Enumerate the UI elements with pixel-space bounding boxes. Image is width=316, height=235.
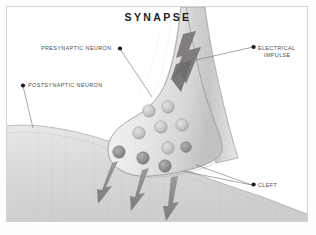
- label-postsynaptic-neuron: POSTSYNAPTIC NEURON: [28, 82, 102, 89]
- bullet-postsynaptic: [21, 83, 25, 87]
- bullet-presynaptic: [118, 46, 122, 50]
- label-electrical-impulse-line1: ELECTRICAL: [258, 45, 295, 52]
- bullet-cleft: [252, 182, 256, 186]
- page-title: SYNAPSE: [0, 11, 316, 23]
- illustration-canvas: SYNAPSE PRESYNAPTIC NEURON POSTSYNAPTIC …: [0, 0, 316, 235]
- label-cleft: CLEFT: [258, 182, 277, 189]
- label-electrical-impulse-line2: IMPULSE: [264, 52, 291, 59]
- bullet-electrical: [252, 45, 256, 49]
- synapse-diagram: [0, 0, 316, 235]
- label-presynaptic-neuron: PRESYNAPTIC NEURON: [41, 45, 111, 52]
